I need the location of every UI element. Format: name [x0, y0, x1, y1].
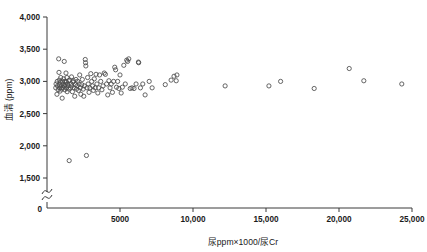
data-point	[57, 57, 61, 61]
data-point	[362, 79, 366, 83]
data-point	[78, 73, 82, 77]
y-tick-label: 3,500	[20, 45, 41, 54]
data-point	[141, 82, 145, 86]
data-point	[169, 78, 173, 82]
data-point	[119, 91, 123, 95]
y-tick-label: 2,000	[20, 142, 41, 151]
data-point	[114, 68, 118, 72]
data-point	[96, 91, 100, 95]
data-point	[67, 159, 71, 163]
data-point	[125, 59, 129, 63]
data-point	[143, 93, 147, 97]
x-tick-label: 25,000	[399, 215, 424, 224]
data-point	[62, 59, 66, 63]
data-point	[116, 79, 120, 83]
y-tick-labels: 1,5002,0002,5003,0003,5004,000	[20, 13, 41, 183]
x-tick-labels: 500010,00015,00020,00025,000	[111, 215, 425, 224]
tick-marks-group	[43, 17, 412, 212]
x-tick-label: 10,000	[180, 215, 205, 224]
data-point	[118, 73, 122, 77]
data-point	[73, 94, 77, 98]
axes-group	[42, 17, 412, 208]
data-point	[122, 63, 126, 67]
data-point	[84, 153, 88, 157]
data-point	[90, 79, 94, 83]
scatter-chart: 1,5002,0002,5003,0003,5004,000 500010,00…	[0, 0, 427, 252]
data-point	[150, 86, 154, 90]
data-point	[106, 93, 110, 97]
data-point	[109, 82, 113, 86]
data-point	[64, 71, 68, 75]
data-point	[85, 75, 89, 79]
data-point	[279, 79, 283, 83]
x-tick-label: 15,000	[253, 215, 278, 224]
data-point	[174, 79, 178, 83]
data-point	[87, 90, 91, 94]
data-points-group	[54, 57, 404, 163]
y-tick-label: 2,500	[20, 110, 41, 119]
data-point	[163, 83, 167, 87]
chart-canvas: 1,5002,0002,5003,0003,5004,000 500010,00…	[0, 0, 427, 252]
data-point	[347, 66, 351, 70]
data-point	[99, 79, 103, 83]
data-point	[80, 77, 84, 81]
x-tick-label: 20,000	[326, 215, 351, 224]
data-point	[60, 96, 64, 100]
x-tick-label: 5000	[111, 215, 130, 224]
y-tick-label: 1,500	[20, 174, 41, 183]
y-tick-label: 3,000	[20, 77, 41, 86]
data-point	[92, 77, 96, 81]
data-point	[223, 84, 227, 88]
data-point	[110, 90, 114, 94]
data-point	[57, 70, 61, 74]
y-tick-label: 4,000	[20, 13, 41, 22]
y-axis-break-icon-lower	[42, 195, 52, 200]
data-point	[113, 65, 117, 69]
data-point	[134, 82, 138, 86]
data-point	[111, 79, 115, 83]
data-point	[147, 79, 151, 83]
data-point	[123, 82, 127, 86]
data-point	[138, 86, 142, 90]
data-point	[267, 84, 271, 88]
x-axis-title: 尿ppm×1000/尿Cr	[208, 237, 278, 247]
data-point	[400, 82, 404, 86]
data-point	[89, 72, 93, 76]
origin-tick-label: 0	[37, 205, 42, 214]
y-axis-title: 血清 (ppm)	[3, 78, 14, 121]
data-point	[312, 86, 316, 90]
